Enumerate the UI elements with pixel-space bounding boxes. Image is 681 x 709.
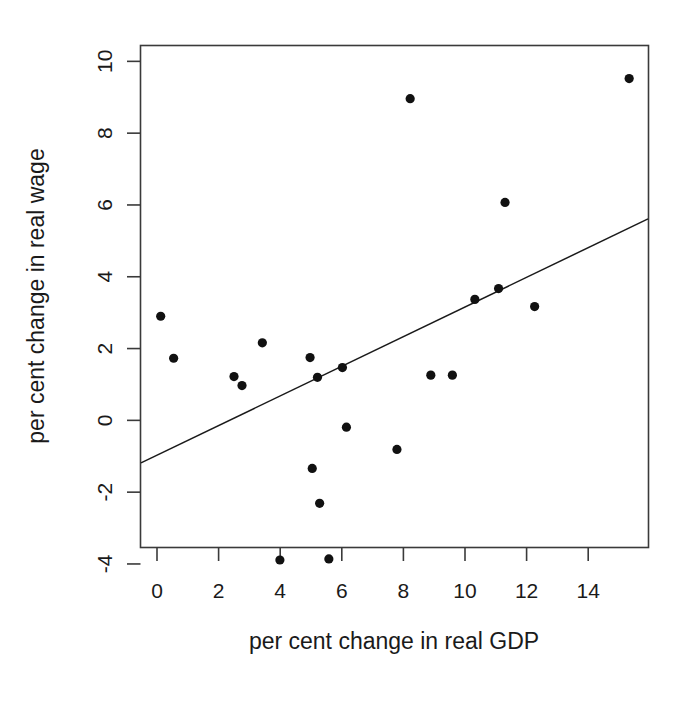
- data-point: [305, 353, 314, 362]
- data-point: [426, 371, 435, 380]
- data-point: [275, 555, 284, 564]
- y-tick-label: 4: [93, 271, 116, 283]
- x-tick-label: 10: [453, 579, 476, 602]
- x-tick-label: 12: [515, 579, 538, 602]
- data-point: [315, 499, 324, 508]
- data-point: [308, 464, 317, 473]
- y-tick-label: 8: [93, 127, 116, 139]
- data-point: [470, 295, 479, 304]
- data-point: [406, 94, 415, 103]
- data-point: [258, 338, 267, 347]
- x-tick-label: 14: [577, 579, 601, 602]
- x-axis-title: per cent change in real GDP: [249, 628, 539, 654]
- data-point: [625, 74, 634, 83]
- data-point: [169, 354, 178, 363]
- plot-canvas: 02468101214 -4-20246810 per cent change …: [0, 0, 681, 709]
- scatter-plot-figure: 02468101214 -4-20246810 per cent change …: [0, 0, 681, 709]
- data-point: [237, 381, 246, 390]
- x-tick-label: 6: [336, 579, 348, 602]
- data-point: [500, 198, 509, 207]
- y-tick-label: 6: [93, 199, 116, 211]
- x-tick-label: 4: [274, 579, 286, 602]
- x-tick-label: 2: [213, 579, 225, 602]
- data-point: [338, 363, 347, 372]
- y-tick-label: 2: [93, 343, 116, 355]
- y-tick-label: 0: [93, 415, 116, 427]
- y-axis-title: per cent change in real wage: [23, 148, 49, 443]
- data-point: [342, 423, 351, 432]
- data-point: [494, 284, 503, 293]
- y-tick-label: -2: [93, 483, 116, 502]
- data-point: [530, 302, 539, 311]
- data-point: [392, 445, 401, 454]
- y-tick-label: 10: [93, 50, 116, 73]
- data-point: [156, 312, 165, 321]
- data-point: [448, 371, 457, 380]
- data-point: [324, 554, 333, 563]
- data-point: [313, 373, 322, 382]
- y-tick-label: -4: [93, 554, 116, 573]
- x-tick-label: 0: [151, 579, 163, 602]
- data-point: [229, 372, 238, 381]
- x-tick-label: 8: [398, 579, 410, 602]
